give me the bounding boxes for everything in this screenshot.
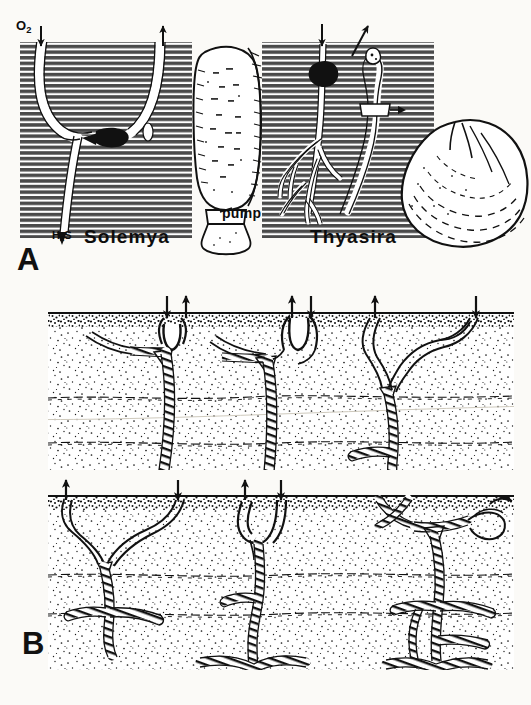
figure-root: A B Solemya Thyasira O2 H2S pump xyxy=(0,0,531,705)
sectioned-organ xyxy=(143,123,153,141)
solemya-shell xyxy=(193,47,262,254)
oxygen-label-text: O xyxy=(16,18,26,33)
oxygen-label: O2 xyxy=(16,18,31,35)
oxygen-label-subscript: 2 xyxy=(26,25,31,35)
sulfide-label-tail: S xyxy=(64,229,71,241)
sulfide-label: H2S xyxy=(52,229,72,243)
sediment-surface-band-upper xyxy=(48,312,514,327)
sulfide-label-text: H xyxy=(52,229,60,241)
taxon-label-thyasira: Thyasira xyxy=(310,226,397,248)
panel-b-lower-row xyxy=(48,480,514,673)
thyasira-animal-blob xyxy=(309,61,339,87)
panel-label-a: A xyxy=(17,244,39,275)
pump-foot xyxy=(201,224,250,254)
pump-label: pump xyxy=(222,205,261,221)
taxon-label-solemya: Solemya xyxy=(84,226,170,248)
solemya-animal-blob xyxy=(95,128,129,148)
panel-a-solemya-scene xyxy=(20,26,192,245)
figure-artwork xyxy=(0,0,531,705)
panel-label-b: B xyxy=(22,628,44,659)
